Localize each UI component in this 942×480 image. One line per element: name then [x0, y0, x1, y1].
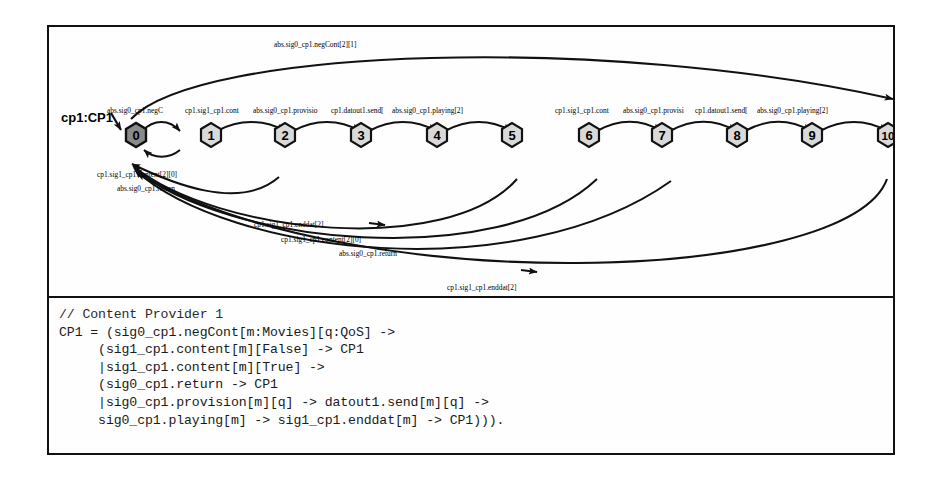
edge-label-send-right: cp1.datout1.send[: [695, 106, 748, 115]
edge-label-top-arc: abs.sig0_cp1.negCont[2][1]: [274, 40, 357, 49]
state-node-5-label: 5: [508, 128, 515, 143]
state-node-9[interactable]: 9: [802, 123, 822, 147]
state-node-10[interactable]: 10: [878, 123, 893, 147]
state-node-10-label: 10: [882, 130, 893, 142]
state-node-4-label: 4: [433, 128, 441, 143]
edge-label-content-left: cp1.sig1_cp1.cont: [185, 106, 240, 115]
state-node-9-label: 9: [808, 128, 815, 143]
state-node-2-label: 2: [281, 128, 288, 143]
edge-label-provision-left: abs.sig0_cp1.provisio: [253, 106, 318, 115]
edge-label-return-near-zero: abs.sig0_cp1.return: [117, 184, 175, 193]
edge-label-send-left: cp1.datout1.send[: [331, 106, 384, 115]
edge-label-enddat-bottom: cp1.sig1_cp1.enddat[2]: [447, 283, 516, 292]
edge-midpoint-arrow-b: [521, 270, 537, 272]
edge-chain-left: [142, 122, 511, 157]
state-node-1[interactable]: 1: [201, 123, 221, 147]
automaton-diagram: abs.sig0_cp1.negCont[2][1]: [49, 27, 893, 296]
edge-label-enddat-mid: cp1.sig1_cp1.enddat[2]: [254, 220, 323, 229]
process-name-label: cp1:CP1: [61, 110, 113, 125]
state-node-7-label: 7: [658, 128, 665, 143]
code-line-2: (sig1_cp1.content[m][False] -> CP1: [59, 341, 893, 359]
edge-0-to-1: [142, 122, 180, 131]
figure-frame: abs.sig0_cp1.negCont[2][1]: [47, 25, 895, 455]
state-node-2[interactable]: 2: [275, 123, 295, 147]
edge-label-playing-left: abs.sig0_cp1.playing[2]: [392, 106, 463, 115]
code-line-0: // Content Provider 1: [59, 306, 893, 324]
state-node-0[interactable]: 0: [126, 123, 146, 147]
edge-5-to-0: [133, 166, 517, 228]
edge-1-to-0: [144, 150, 180, 157]
code-line-5: |sig0_cp1.provision[m][q] -> datout1.sen…: [59, 394, 893, 412]
code-line-4: (sig0_cp1.return -> CP1: [59, 376, 893, 394]
state-node-4[interactable]: 4: [427, 123, 447, 147]
state-node-7[interactable]: 7: [652, 123, 672, 147]
state-node-6-label: 6: [585, 128, 592, 143]
automaton-panel: abs.sig0_cp1.negCont[2][1]: [49, 27, 893, 298]
edge-label-content-mid: cp1.sig1_cp1.content[2][0]: [281, 235, 361, 244]
edge-label-negcont-left: abs.sig0_cp1.negC: [107, 106, 163, 115]
code-line-1: CP1 = (sig0_cp1.negCont[m:Movies][q:QoS]…: [59, 324, 893, 342]
edge-label-provision-right: abs.sig0_cp1.provisi: [623, 106, 684, 115]
edge-label-content-right: cp1.sig1_cp1.cont: [555, 106, 610, 115]
state-node-3-label: 3: [357, 128, 364, 143]
state-node-3[interactable]: 3: [351, 123, 371, 147]
code-panel: // Content Provider 1 CP1 = (sig0_cp1.ne…: [49, 298, 893, 453]
state-node-1-label: 1: [207, 128, 214, 143]
state-node-8-label: 8: [733, 128, 740, 143]
edge-midpoint-arrow-a: [369, 223, 385, 225]
edge-label-content-near-zero: cp1.sig1_cp1.content[2][0]: [97, 170, 177, 179]
page-root: abs.sig0_cp1.negCont[2][1]: [0, 0, 942, 480]
edge-returns-to-zero: [132, 164, 887, 263]
state-node-6[interactable]: 6: [579, 123, 599, 147]
state-node-8[interactable]: 8: [727, 123, 747, 147]
edge-10-to-0: [137, 173, 887, 263]
state-node-0-label: 0: [132, 128, 139, 143]
code-line-6: sig0_cp1.playing[m] -> sig1_cp1.enddat[m…: [59, 412, 893, 430]
state-node-5[interactable]: 5: [502, 123, 522, 147]
edge-label-return-mid: abs.sig0_cp1.return: [339, 249, 397, 258]
edge-label-playing-right: abs.sig0_cp1.playing[2]: [757, 106, 828, 115]
code-line-3: |sig1_cp1.content[m][True] ->: [59, 359, 893, 377]
